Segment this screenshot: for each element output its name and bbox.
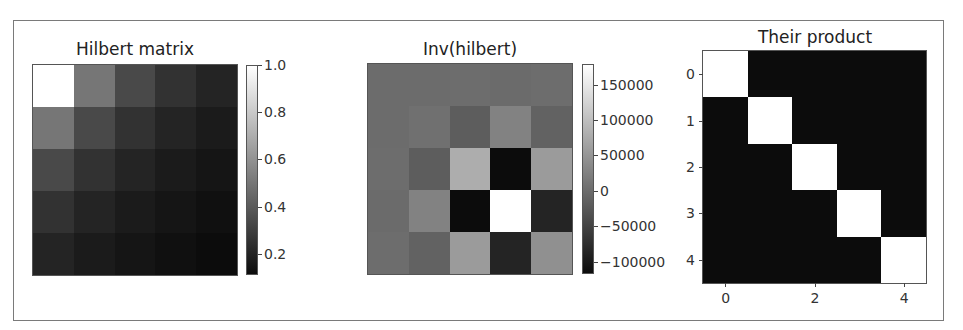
- heatmap-cell: [792, 190, 837, 236]
- heatmap-cell: [837, 237, 882, 283]
- y-tick-mark: [699, 167, 703, 168]
- colorbar-tick-label: 100000: [600, 113, 653, 127]
- heatmap-cell: [450, 190, 491, 232]
- colorbar-tick-label: 0.8: [264, 105, 286, 119]
- heatmap-cell: [74, 65, 115, 107]
- hilbert-heatmap: [33, 65, 237, 275]
- colorbar-tick-label: 50000: [600, 148, 645, 162]
- heatmap-cell: [115, 65, 156, 107]
- y-tick-mark: [699, 121, 703, 122]
- colorbar-tick-label: −100000: [600, 255, 665, 269]
- heatmap-cell: [531, 106, 572, 148]
- y-tick-mark: [699, 74, 703, 75]
- heatmap-cell: [409, 64, 450, 106]
- heatmap-cell: [74, 191, 115, 233]
- heatmap-cell: [881, 144, 926, 190]
- colorbar-tick-mark: [258, 65, 262, 66]
- colorbar-tick-mark: [258, 112, 262, 113]
- heatmap-cell: [409, 148, 450, 190]
- colorbar-tick-label: 150000: [600, 78, 653, 92]
- heatmap-cell: [531, 148, 572, 190]
- heatmap-cell: [490, 148, 531, 190]
- colorbar-tick-mark: [258, 159, 262, 160]
- heatmap-cell: [748, 190, 793, 236]
- heatmap-cell: [368, 190, 409, 232]
- colorbar-tick-label: 0.2: [264, 247, 286, 261]
- colorbar-tick-label: 0: [600, 184, 609, 198]
- inverse-title: Inv(hilbert): [423, 39, 517, 59]
- colorbar-tick-mark: [594, 191, 598, 192]
- colorbar-tick-label: 1.0: [264, 58, 286, 72]
- inverse-heatmap: [368, 64, 572, 274]
- heatmap-cell: [196, 65, 237, 107]
- heatmap-cell: [792, 237, 837, 283]
- heatmap-cell: [837, 97, 882, 143]
- heatmap-cell: [155, 233, 196, 275]
- hilbert-colorbar: [246, 65, 258, 275]
- heatmap-cell: [115, 191, 156, 233]
- x-tick-mark: [815, 283, 816, 287]
- colorbar-tick-mark: [594, 262, 598, 263]
- heatmap-cell: [703, 97, 748, 143]
- heatmap-cell: [490, 106, 531, 148]
- heatmap-cell: [490, 64, 531, 106]
- x-tick-mark: [725, 283, 726, 287]
- heatmap-cell: [703, 51, 748, 97]
- heatmap-cell: [703, 144, 748, 190]
- colorbar-tick-mark: [594, 155, 598, 156]
- y-tick-label: 0: [686, 67, 695, 81]
- heatmap-cell: [196, 149, 237, 191]
- x-tick-mark: [904, 283, 905, 287]
- heatmap-cell: [33, 107, 74, 149]
- heatmap-cell: [155, 107, 196, 149]
- heatmap-cell: [748, 51, 793, 97]
- heatmap-cell: [837, 190, 882, 236]
- heatmap-cell: [531, 190, 572, 232]
- y-tick-mark: [699, 213, 703, 214]
- heatmap-cell: [881, 190, 926, 236]
- heatmap-cell: [196, 233, 237, 275]
- colorbar-tick-mark: [594, 226, 598, 227]
- heatmap-cell: [115, 149, 156, 191]
- colorbar-tick-mark: [258, 207, 262, 208]
- colorbar-tick-label: 0.6: [264, 152, 286, 166]
- heatmap-cell: [490, 232, 531, 274]
- heatmap-cell: [490, 190, 531, 232]
- hilbert-title: Hilbert matrix: [76, 39, 194, 59]
- inverse-colorbar: [582, 64, 594, 274]
- heatmap-cell: [368, 232, 409, 274]
- heatmap-cell: [703, 237, 748, 283]
- heatmap-cell: [703, 190, 748, 236]
- heatmap-cell: [196, 191, 237, 233]
- heatmap-cell: [450, 64, 491, 106]
- heatmap-cell: [368, 106, 409, 148]
- heatmap-cell: [115, 233, 156, 275]
- colorbar-tick-mark: [594, 120, 598, 121]
- x-tick-label: 4: [900, 291, 909, 305]
- heatmap-cell: [837, 144, 882, 190]
- heatmap-cell: [531, 64, 572, 106]
- heatmap-cell: [33, 191, 74, 233]
- colorbar-tick-label: −50000: [600, 219, 656, 233]
- heatmap-cell: [33, 65, 74, 107]
- heatmap-cell: [196, 107, 237, 149]
- heatmap-cell: [792, 51, 837, 97]
- heatmap-cell: [881, 237, 926, 283]
- heatmap-cell: [409, 106, 450, 148]
- heatmap-cell: [531, 232, 572, 274]
- product-heatmap: [703, 51, 926, 283]
- heatmap-cell: [881, 97, 926, 143]
- heatmap-cell: [115, 107, 156, 149]
- heatmap-cell: [368, 64, 409, 106]
- colorbar-tick-label: 0.4: [264, 200, 286, 214]
- x-tick-label: 2: [811, 291, 820, 305]
- heatmap-cell: [74, 149, 115, 191]
- heatmap-cell: [748, 97, 793, 143]
- heatmap-cell: [748, 237, 793, 283]
- heatmap-cell: [450, 148, 491, 190]
- heatmap-cell: [450, 232, 491, 274]
- heatmap-cell: [33, 233, 74, 275]
- y-tick-label: 3: [686, 206, 695, 220]
- y-tick-label: 4: [686, 253, 695, 267]
- heatmap-cell: [792, 144, 837, 190]
